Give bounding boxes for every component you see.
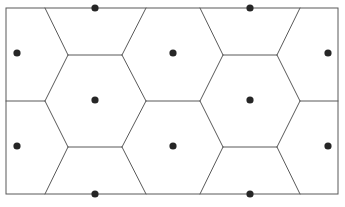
hexagonal-tiling-figure (0, 0, 345, 207)
tiling-canvas (0, 0, 345, 207)
site-point-dot (169, 49, 176, 56)
site-point-dot (169, 142, 176, 149)
site-point-dot (324, 142, 331, 149)
site-point-dot (91, 190, 98, 197)
site-point-dot (13, 49, 20, 56)
site-point-dot (246, 190, 253, 197)
figure-background (0, 0, 345, 207)
site-point-dot (91, 96, 98, 103)
site-point-dot (246, 4, 253, 11)
site-point-dot (13, 142, 20, 149)
site-point-dot (324, 49, 331, 56)
site-point-dot (246, 96, 253, 103)
site-point-dot (91, 4, 98, 11)
